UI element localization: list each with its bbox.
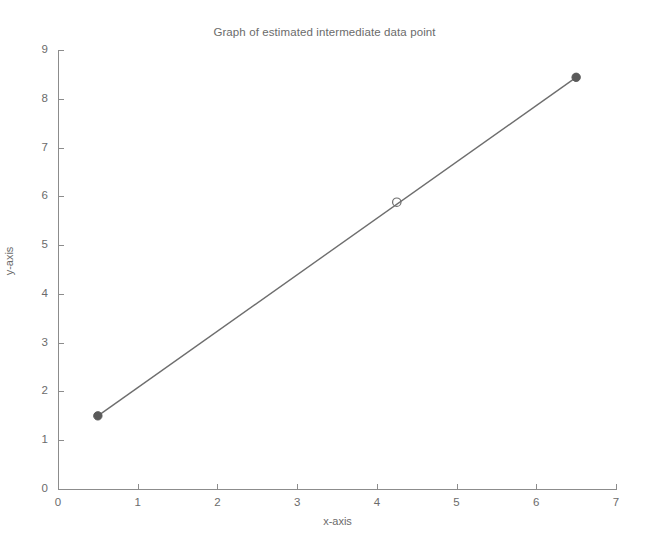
y-axis-tick: [59, 196, 64, 197]
y-axis-tick-label: 8: [18, 93, 48, 105]
data-line: [98, 77, 576, 416]
y-axis-tick-label: 0: [18, 483, 48, 495]
y-axis-tick: [59, 148, 64, 149]
y-axis-tick: [59, 99, 64, 100]
estimated-point-marker: [393, 198, 401, 206]
x-axis-tick: [377, 484, 378, 489]
x-axis-tick-label: 1: [123, 497, 153, 509]
x-axis-tick-label: 7: [601, 497, 631, 509]
x-axis-tick-label: 5: [442, 497, 472, 509]
x-axis-line: [58, 489, 617, 490]
y-axis-label: y-axis: [3, 247, 15, 276]
x-axis-tick: [457, 484, 458, 489]
y-axis-tick: [59, 440, 64, 441]
y-axis-tick-label: 9: [18, 44, 48, 56]
y-axis-tick-label: 3: [18, 337, 48, 349]
y-axis-tick-label: 2: [18, 385, 48, 397]
data-point-marker: [572, 73, 580, 81]
x-axis-tick-label: 0: [43, 497, 73, 509]
y-axis-tick-label: 5: [18, 239, 48, 251]
x-axis-tick: [58, 484, 59, 489]
x-axis-tick-label: 2: [202, 497, 232, 509]
x-axis-tick-label: 6: [521, 497, 551, 509]
chart-title: Graph of estimated intermediate data poi…: [0, 26, 649, 38]
x-axis-tick: [297, 484, 298, 489]
y-axis-tick: [59, 294, 64, 295]
y-axis-tick: [59, 245, 64, 246]
x-axis-tick-label: 3: [282, 497, 312, 509]
y-axis-tick: [59, 50, 64, 51]
y-axis-tick-label: 4: [18, 288, 48, 300]
chart-data-layer: [0, 0, 649, 556]
y-axis-tick-label: 6: [18, 190, 48, 202]
data-point-marker: [94, 412, 102, 420]
y-axis-tick: [59, 489, 64, 490]
x-axis-tick: [217, 484, 218, 489]
y-axis-tick: [59, 391, 64, 392]
y-axis-line: [58, 50, 59, 490]
chart-figure: Graph of estimated intermediate data poi…: [0, 0, 649, 556]
x-axis-label: x-axis: [58, 515, 617, 527]
y-axis-tick-label: 1: [18, 434, 48, 446]
x-axis-tick: [536, 484, 537, 489]
x-axis-tick: [616, 484, 617, 489]
x-axis-tick-label: 4: [362, 497, 392, 509]
y-axis-tick-label: 7: [18, 142, 48, 154]
x-axis-tick: [138, 484, 139, 489]
y-axis-tick: [59, 343, 64, 344]
